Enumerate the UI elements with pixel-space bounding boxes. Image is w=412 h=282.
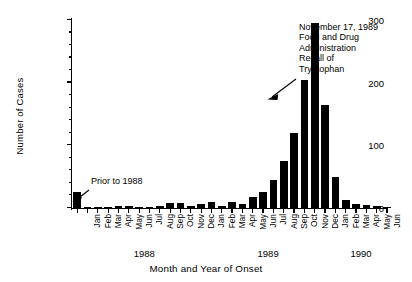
x-tick-mark — [128, 208, 129, 213]
x-tick-mark — [149, 208, 150, 213]
x-axis-year-label: 1989 — [258, 248, 279, 259]
bar — [259, 192, 267, 208]
x-tick-cell — [341, 208, 351, 213]
x-tick-mark — [201, 208, 202, 213]
x-tick-mark — [376, 208, 377, 213]
bar — [301, 80, 309, 208]
bar-cell — [279, 20, 289, 208]
x-tick-cell — [330, 208, 340, 213]
bar — [290, 133, 298, 208]
bar — [332, 177, 340, 208]
x-label-cell: Sep — [165, 214, 175, 248]
bar-cell — [227, 20, 237, 208]
bar-cell — [206, 20, 216, 208]
bar — [73, 192, 81, 208]
x-tick-cell — [268, 208, 278, 213]
x-tick-mark — [231, 208, 232, 213]
bar-cell — [258, 20, 268, 208]
x-tick-cell — [124, 208, 134, 213]
bar-cell — [144, 20, 154, 208]
x-tick-cell — [175, 208, 185, 213]
bar-cell — [175, 20, 185, 208]
x-tick-mark — [366, 208, 367, 213]
x-tick-mark — [273, 208, 274, 213]
x-tick-mark — [180, 208, 181, 213]
x-tick-cell — [72, 208, 82, 213]
x-tick-mark — [87, 208, 88, 213]
x-label-cell: May — [248, 214, 258, 248]
x-label-cell: Nov — [310, 214, 320, 248]
x-tick-cell — [82, 208, 92, 213]
x-label-cell: Mar — [351, 214, 361, 248]
x-tick-mark — [108, 208, 109, 213]
x-label-cell: Jul — [268, 214, 278, 248]
x-tick-label: Jun — [392, 214, 402, 227]
x-tick-mark — [304, 208, 305, 213]
x-axis-year-label: 1990 — [350, 248, 371, 259]
x-tick-mark — [314, 208, 315, 213]
x-tick-cell — [237, 208, 247, 213]
x-tick-mark — [324, 208, 325, 213]
x-label-cell: Aug — [279, 214, 289, 248]
x-tick-cell — [144, 208, 154, 213]
x-tick-cell — [289, 208, 299, 213]
x-label-cell: Dec — [320, 214, 330, 248]
x-label-cell: May — [124, 214, 134, 248]
annotation-prior-to-1988: Prior to 1988 — [91, 176, 143, 186]
y-axis-title: Number of Cases — [2, 0, 13, 56]
x-tick-mark — [77, 208, 78, 213]
x-tick-cell — [186, 208, 196, 213]
x-label-cell: Aug — [155, 214, 165, 248]
x-label-cell: Jan — [330, 214, 340, 248]
x-tick-cell — [206, 208, 216, 213]
x-tick-cell — [372, 208, 382, 213]
x-tick-mark — [242, 208, 243, 213]
x-label-cell: Mar — [103, 214, 113, 248]
x-label-cell: Nov — [186, 214, 196, 248]
x-tick-mark — [252, 208, 253, 213]
x-label-cell — [72, 214, 82, 248]
x-axis-title: Month and Year of Onset — [0, 263, 412, 274]
bar-cell — [237, 20, 247, 208]
x-label-cell: Apr — [361, 214, 371, 248]
x-tick-cell — [134, 208, 144, 213]
bar — [280, 161, 288, 208]
x-tick-mark — [190, 208, 191, 213]
bar-cell — [196, 20, 206, 208]
x-tick-mark — [139, 208, 140, 213]
bar-cell — [72, 20, 82, 208]
x-tick-cell — [248, 208, 258, 213]
x-label-cell: Feb — [93, 214, 103, 248]
x-tick-mark — [221, 208, 222, 213]
x-label-cell: Jan — [206, 214, 216, 248]
x-tick-cell — [103, 208, 113, 213]
x-label-cell: Jul — [144, 214, 154, 248]
x-tick-cell — [93, 208, 103, 213]
x-label-cell: Mar — [227, 214, 237, 248]
x-label-cell: Oct — [299, 214, 309, 248]
x-tick-cell — [279, 208, 289, 213]
bar-cell — [382, 20, 392, 208]
x-tick-cell — [361, 208, 371, 213]
bar-cell — [155, 20, 165, 208]
bar — [321, 105, 329, 208]
x-axis-ticks — [72, 208, 392, 213]
bar — [342, 200, 350, 208]
x-axis-year-label: 1988 — [134, 248, 155, 259]
x-tick-cell — [227, 208, 237, 213]
annotation-fda-recall: November 17, 1989 Food and Drug Administ… — [299, 22, 378, 74]
x-label-cell: Apr — [237, 214, 247, 248]
bar-cell — [248, 20, 258, 208]
y-axis-title-text: Number of Cases — [14, 56, 25, 176]
x-label-cell: Dec — [196, 214, 206, 248]
x-tick-cell — [299, 208, 309, 213]
bar — [270, 180, 278, 208]
bar — [249, 197, 257, 208]
x-label-cell: May — [372, 214, 382, 248]
x-tick-mark — [335, 208, 336, 213]
bar-cell — [217, 20, 227, 208]
bar-cell — [165, 20, 175, 208]
x-tick-cell — [310, 208, 320, 213]
bar-cell — [268, 20, 278, 208]
x-label-cell: Apr — [113, 214, 123, 248]
